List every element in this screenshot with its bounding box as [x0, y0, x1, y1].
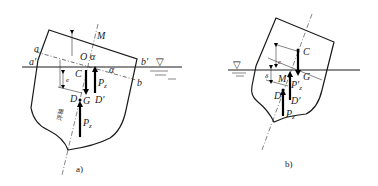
- label-C: C: [75, 68, 82, 79]
- label-Pz-upper: Pz: [97, 77, 107, 90]
- label-G: G: [83, 95, 90, 106]
- panel-b: ▽ C G M D D' P'z Pz e δ b): [228, 14, 360, 169]
- caption-b: b): [285, 159, 293, 169]
- label-e-a: e: [66, 76, 69, 84]
- label-delta-b: δ: [265, 72, 269, 80]
- extension-line: [274, 44, 300, 52]
- label-floating-axis: 浮轴: [55, 108, 66, 122]
- label-D-prime-b: D': [290, 95, 301, 106]
- water-level-icon-a: ▽: [156, 56, 164, 67]
- label-alpha-top: α: [90, 51, 96, 62]
- label-e-b: e: [278, 58, 281, 66]
- label-Pz-lower: Pz: [82, 117, 92, 130]
- label-Pz-b: Pz: [285, 108, 295, 121]
- label-D-prime: D': [94, 94, 105, 105]
- label-D: D: [69, 93, 78, 104]
- label-b-prime: b': [141, 56, 149, 67]
- label-D-b: D: [273, 90, 282, 101]
- label-G-b: G: [303, 71, 310, 82]
- water-level-icon-b: ▽: [233, 59, 241, 70]
- label-M-b: M: [277, 73, 287, 84]
- label-alpha-side: α: [109, 64, 115, 75]
- label-a: a: [34, 43, 39, 54]
- label-C-b: C: [303, 46, 310, 57]
- label-O: O: [80, 51, 87, 62]
- label-a-prime: a': [29, 56, 37, 67]
- label-M: M: [96, 30, 106, 41]
- point-C-b: [297, 49, 300, 52]
- point-D-b: [282, 89, 285, 92]
- label-Pz-prime-b: P'z: [290, 79, 302, 92]
- caption-a: a): [76, 164, 83, 174]
- point-D: [79, 99, 82, 102]
- hull-outline-a: [31, 30, 137, 150]
- panel-a: ▽ M O α α a a' b b' C G D D' Pz Pz e 浮轴 …: [22, 24, 182, 175]
- label-b: b: [137, 77, 142, 88]
- stability-diagram: ▽ M O α α a a' b b' C G D D' Pz Pz e 浮轴 …: [0, 0, 378, 186]
